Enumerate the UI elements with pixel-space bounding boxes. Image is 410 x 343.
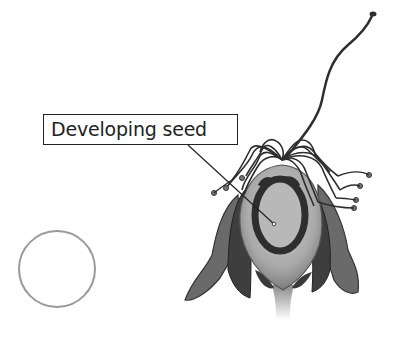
answer-circle[interactable] — [18, 230, 96, 308]
leader-dot — [272, 222, 276, 226]
label-developing-seed: Developing seed — [43, 114, 238, 145]
label-text: Developing seed — [51, 118, 207, 140]
ovule-ring — [255, 179, 305, 251]
stigma — [370, 12, 377, 17]
diagram-stage: Developing seed — [0, 0, 410, 343]
style — [284, 16, 372, 160]
